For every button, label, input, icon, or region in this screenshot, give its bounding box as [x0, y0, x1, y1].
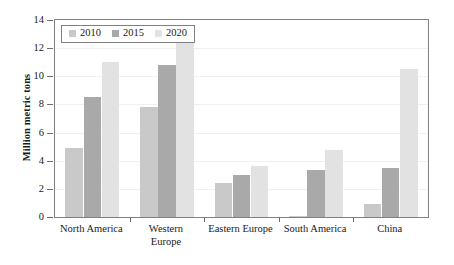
y-tick-label: 12	[34, 43, 45, 54]
bar-chart-figure: Million metric tons 02468101214 North Am…	[0, 0, 454, 265]
legend-swatch-icon	[155, 30, 162, 37]
x-category-label: South America	[284, 223, 347, 236]
y-axis-title: Million metric tons	[21, 48, 32, 188]
bar	[325, 150, 343, 217]
y-tick-mark	[47, 104, 53, 105]
bar	[215, 183, 233, 217]
bar	[176, 33, 194, 217]
bar	[382, 168, 400, 217]
chart-legend: 201020152020	[61, 25, 195, 43]
y-tick-mark	[47, 76, 53, 77]
bar	[84, 97, 102, 217]
bar-group	[215, 20, 269, 217]
legend-item: 2010	[69, 28, 101, 39]
bar-group	[289, 20, 343, 217]
y-tick-label: 10	[34, 71, 45, 82]
x-category-label: North America	[60, 223, 123, 236]
bar	[102, 62, 120, 217]
x-category-label: Eastern Europe	[208, 223, 272, 236]
bar	[289, 216, 307, 217]
y-tick-label: 6	[39, 127, 44, 138]
x-tick-mark	[279, 217, 280, 222]
x-tick-mark	[353, 217, 354, 222]
bar	[400, 69, 418, 217]
bar	[158, 65, 176, 217]
y-tick-label: 14	[34, 15, 45, 26]
bar-group	[364, 20, 418, 217]
y-tick-label: 2	[39, 184, 44, 195]
bar	[307, 170, 325, 217]
bar-group	[140, 20, 194, 217]
legend-swatch-icon	[69, 30, 76, 37]
y-tick-mark	[47, 133, 53, 134]
bar	[233, 175, 251, 217]
bar	[65, 148, 83, 217]
legend-swatch-icon	[112, 30, 119, 37]
y-tick-label: 4	[39, 155, 44, 166]
legend-item: 2020	[155, 28, 187, 39]
x-category-label: China	[377, 223, 402, 236]
legend-label: 2020	[166, 28, 187, 39]
y-tick-label: 0	[39, 212, 44, 223]
legend-item: 2015	[112, 28, 144, 39]
y-tick-mark	[47, 48, 53, 49]
y-tick-mark	[47, 189, 53, 190]
x-tick-mark	[204, 217, 205, 222]
bar	[364, 204, 382, 217]
plot-area: 02468101214	[54, 19, 429, 218]
bar-group	[65, 20, 119, 217]
y-tick-mark	[47, 217, 53, 218]
x-tick-mark	[130, 217, 131, 222]
y-tick-label: 8	[39, 99, 44, 110]
legend-label: 2015	[123, 28, 144, 39]
y-tick-mark	[47, 161, 53, 162]
legend-label: 2010	[80, 28, 101, 39]
bar	[140, 107, 158, 217]
y-tick-mark	[47, 20, 53, 21]
x-category-label: Western Europe	[149, 223, 183, 248]
bar	[251, 166, 269, 217]
